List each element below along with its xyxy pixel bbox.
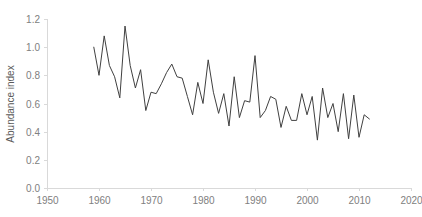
x-tick-label: 1950 — [36, 195, 59, 206]
y-tick-label: 0.6 — [26, 99, 40, 110]
x-tick-label: 1970 — [140, 195, 163, 206]
y-tick-label: 0.4 — [26, 127, 40, 138]
chart-container: 0.00.20.40.60.81.01.2 195019601970198019… — [0, 0, 422, 217]
y-tick-label: 0.8 — [26, 70, 40, 81]
line-chart: 0.00.20.40.60.81.01.2 195019601970198019… — [0, 0, 422, 217]
x-tick-label: 2010 — [348, 195, 371, 206]
x-tick-label: 1980 — [192, 195, 215, 206]
y-axis-title: Abundance index — [5, 65, 16, 142]
x-tick-label: 1960 — [88, 195, 111, 206]
abundance-index-line — [94, 26, 370, 140]
x-axis-ticks: 19501960197019801990200020102020 — [36, 188, 422, 206]
y-tick-label: 0.2 — [26, 155, 40, 166]
x-tick-label: 1990 — [244, 195, 267, 206]
y-tick-label: 0.0 — [26, 183, 40, 194]
y-tick-label: 1.0 — [26, 42, 40, 53]
y-axis-group: 0.00.20.40.60.81.01.2 — [26, 14, 47, 194]
x-axis-group: 19501960197019801990200020102020 — [36, 188, 422, 206]
y-tick-label: 1.2 — [26, 14, 40, 25]
x-tick-label: 2020 — [400, 195, 422, 206]
x-tick-label: 2000 — [296, 195, 319, 206]
y-axis-ticks: 0.00.20.40.60.81.01.2 — [26, 14, 47, 194]
